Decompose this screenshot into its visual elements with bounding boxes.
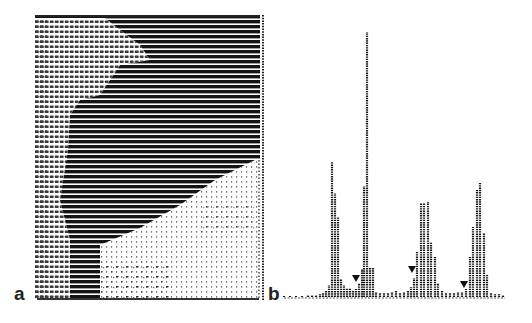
panel-a-image [0,0,532,323]
panel-label-b: b [268,284,280,303]
triangle-marker-icon [460,281,468,288]
triangle-marker-icon [408,266,416,273]
panel-label-a: a [14,284,25,303]
ascii-image [35,15,260,300]
triangle-marker-icon [352,275,360,282]
histogram [263,15,505,300]
